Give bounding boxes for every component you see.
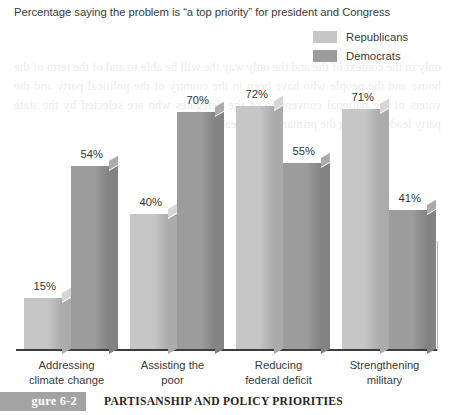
bar: 55% [283, 163, 321, 349]
bar-group: 71%41% [342, 67, 427, 349]
figure-caption-text: PARTISANSHIP AND POLICY PRIORITIES [104, 395, 343, 408]
bar: 54% [71, 166, 109, 349]
bar-body [283, 163, 321, 349]
bar-side-face [427, 210, 436, 354]
chart-plot-area: 15%54%40%70%72%55%71%41% [0, 72, 455, 354]
bar-side-face [168, 214, 177, 354]
bar-front-face [177, 112, 215, 349]
legend-swatch-republicans [313, 31, 337, 43]
bar-value-label: 41% [399, 192, 421, 204]
chart-title: Percentage saying the problem is “a top … [14, 6, 390, 18]
legend-item-republicans: Republicans [313, 28, 439, 45]
right-axis-line [437, 241, 438, 351]
bar-value-label: 71% [352, 91, 374, 103]
bar-body [130, 214, 168, 349]
bar-side-face [321, 163, 330, 354]
legend-label-republicans: Republicans [346, 31, 408, 43]
legend-swatch-democrats [313, 50, 337, 62]
bar-body [177, 112, 215, 349]
bar-value-label: 15% [34, 280, 56, 292]
chart-legend: Republicans Democrats [313, 28, 439, 66]
bar-front-face [342, 109, 380, 349]
bar-front-face [389, 210, 427, 349]
bar-body [71, 166, 109, 349]
bar-value-label: 70% [187, 94, 209, 106]
bar: 71% [342, 109, 380, 349]
figure-number-tag: gure 6-2 [0, 392, 86, 411]
bar: 40% [130, 214, 168, 349]
bar-group: 15%54% [24, 67, 109, 349]
category-axis-labels: Addressingclimate changeAssisting thepoo… [0, 358, 455, 392]
bar-front-face [24, 298, 62, 349]
bar-front-face [236, 106, 274, 349]
category-label-line: Strengthening [320, 358, 449, 373]
category-label-line: military [320, 373, 449, 388]
legend-label-democrats: Democrats [346, 50, 401, 62]
figure-caption: gure 6-2 PARTISANSHIP AND POLICY PRIORIT… [0, 392, 455, 411]
bar-front-face [283, 163, 321, 349]
category-label: Strengtheningmilitary [320, 358, 449, 387]
bar-body [342, 109, 380, 349]
x-axis-line [16, 349, 438, 351]
bar-body [389, 210, 427, 349]
bar-front-face [130, 214, 168, 349]
bar: 72% [236, 106, 274, 349]
bar-value-label: 54% [81, 148, 103, 160]
bar-body [236, 106, 274, 349]
bar-side-face [62, 298, 71, 354]
figure-partisanship-policy-priorities: Percentage saying the problem is “a top … [0, 0, 455, 415]
legend-item-democrats: Democrats [313, 47, 439, 64]
bar: 15% [24, 298, 62, 349]
bar-value-label: 40% [140, 196, 162, 208]
bar-body [24, 298, 62, 349]
bar-value-label: 55% [293, 145, 315, 157]
bar: 70% [177, 112, 215, 349]
bar-front-face [71, 166, 109, 349]
bar-group: 72%55% [236, 67, 321, 349]
bar-side-face [109, 166, 118, 354]
bar-side-face [274, 106, 283, 354]
bar: 41% [389, 210, 427, 349]
bar-group: 40%70% [130, 67, 215, 349]
bar-value-label: 72% [246, 88, 268, 100]
bar-side-face [215, 112, 224, 354]
bar-side-face [380, 109, 389, 354]
